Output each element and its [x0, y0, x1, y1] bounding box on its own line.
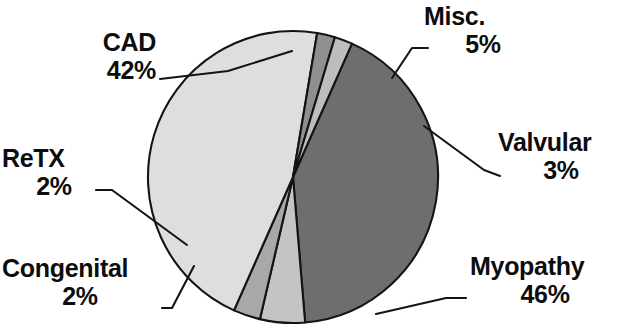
slice-label-congenital-name: Congenital — [2, 254, 158, 282]
slice-label-retx: ReTX 2% — [2, 144, 106, 200]
slice-label-myopathy-value: 46% — [470, 280, 620, 308]
slice-label-cad: CAD 42% — [38, 28, 156, 84]
slice-label-valvular: Valvular 3% — [498, 128, 624, 184]
leader-line-misc — [392, 48, 428, 78]
slice-label-valvular-value: 3% — [498, 156, 624, 184]
leader-line-myopathy — [376, 298, 466, 314]
slice-label-congenital-value: 2% — [2, 282, 158, 310]
slice-label-valvular-name: Valvular — [498, 128, 624, 156]
slice-label-cad-name: CAD — [38, 28, 156, 56]
slice-label-retx-value: 2% — [2, 172, 106, 200]
pie-chart: CAD 42% Misc. 5% Valvular 3% Myopathy 46… — [0, 0, 628, 329]
slice-label-myopathy-name: Myopathy — [470, 252, 620, 280]
slice-label-cad-value: 42% — [38, 56, 156, 84]
slice-label-retx-name: ReTX — [2, 144, 106, 172]
slice-label-misc: Misc. 5% — [424, 2, 542, 58]
slice-label-myopathy: Myopathy 46% — [470, 252, 620, 308]
slice-label-misc-value: 5% — [424, 30, 542, 58]
slice-label-congenital: Congenital 2% — [2, 254, 158, 310]
slice-label-misc-name: Misc. — [424, 2, 542, 30]
